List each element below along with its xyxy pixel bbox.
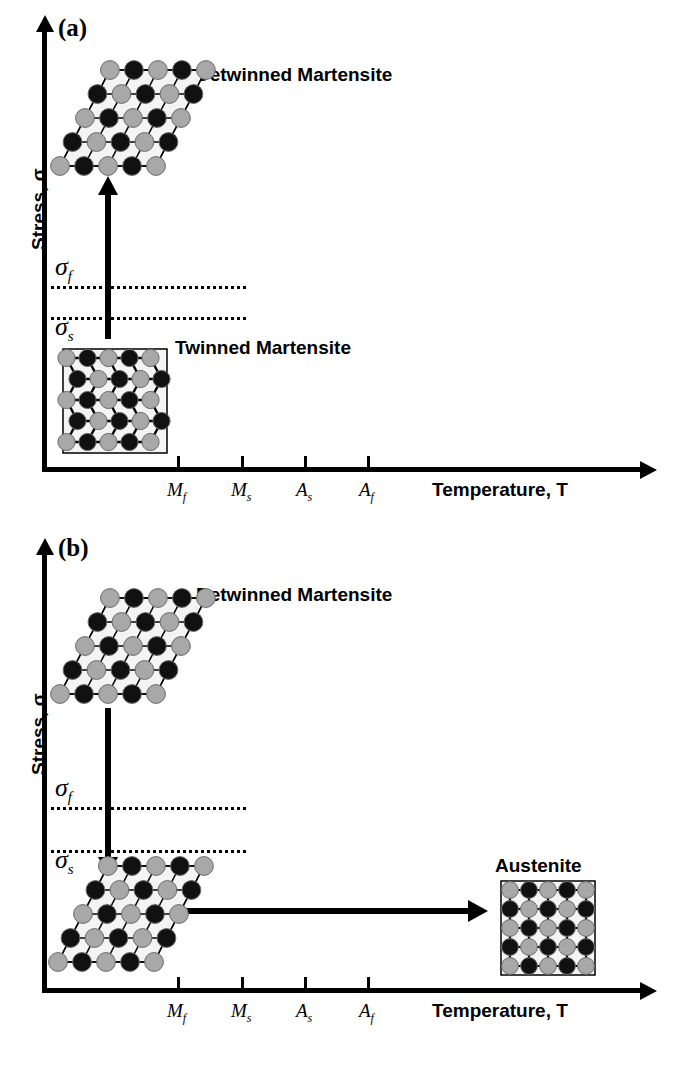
x-tick-af [367,977,370,990]
x-tick-ms [241,977,244,990]
lattice-austenite [500,880,596,976]
tick-subscript: s [247,490,252,504]
phase-label-austenite: Austenite [495,855,582,877]
x-tick-label-af: Af [359,479,374,505]
panel-a-tag: (a) [58,14,87,42]
tick-symbol: A [359,479,371,500]
tick-symbol: A [296,479,308,500]
sigma-s-dotted-line [44,850,246,853]
sheared-lattice-svg [54,588,194,708]
phase-label-detwinned-martensite: Detwinned Martensite [196,584,392,606]
tick-symbol: A [296,1000,308,1021]
x-tick-label-mf: Mf [167,1000,186,1026]
x-tick-label-as: As [296,479,312,505]
x-tick-as [304,456,307,469]
sigma-symbol: σ [55,773,68,802]
y-axis-label: Stress, σ [28,168,50,250]
x-tick-label-af: Af [359,1000,374,1026]
twinned-lattice-svg [62,348,166,452]
x-axis-line [42,988,642,993]
lattice-detwinned-martensite-a [54,60,194,180]
tick-subscript: f [371,1011,374,1025]
x-tick-mf [177,977,180,990]
lattice-twinned-martensite-a [62,348,166,452]
panel-b: (b) Stress, σ Mf Ms As Af Temperature, T… [0,520,692,1040]
x-axis-arrowhead [640,982,657,1000]
panel-a: (a) Stress, σ Mf Ms As Af Temperature, T… [0,0,692,520]
tick-symbol: A [359,1000,371,1021]
x-tick-as [304,977,307,990]
x-tick-af [367,456,370,469]
phase-label-twinned-martensite: Twinned Martensite [175,337,351,359]
x-tick-ms [241,456,244,469]
tick-symbol: M [231,1000,247,1021]
sheared-lattice-svg [52,856,192,976]
x-axis-label: Temperature, T [432,1000,568,1022]
cubic-lattice-svg [500,880,596,976]
sheared-lattice-svg [54,60,194,180]
tick-subscript: s [247,1011,252,1025]
sigma-s-label: σs [55,312,74,345]
tick-subscript: f [371,490,374,504]
sigma-subscript: f [68,268,72,284]
sigma-f-dotted-line [44,286,246,289]
tick-subscript: f [183,490,186,504]
tick-subscript: s [308,490,313,504]
y-axis-line [42,30,47,470]
x-tick-label-mf: Mf [167,479,186,505]
sigma-s-dotted-line [44,317,246,320]
lattice-detwinned-martensite-b-bottom [52,856,192,976]
unloading-arrow-shaft [105,708,111,858]
x-tick-label-ms: Ms [231,479,252,505]
sigma-f-label: σf [55,773,72,806]
lattice-detwinned-martensite-b-top [54,588,194,708]
loading-arrow-shaft [105,194,111,339]
tick-subscript: f [183,1011,186,1025]
x-axis-arrowhead [640,461,657,479]
x-tick-label-ms: Ms [231,1000,252,1026]
x-axis-label: Temperature, T [432,479,568,501]
tick-subscript: s [308,1011,313,1025]
sigma-symbol: σ [55,312,68,341]
sigma-subscript: f [68,789,72,805]
x-axis-line [42,467,642,472]
tick-symbol: M [231,479,247,500]
sigma-subscript: s [68,328,74,344]
tick-symbol: M [167,479,183,500]
x-tick-mf [177,456,180,469]
sigma-f-label: σf [55,252,72,285]
phase-label-detwinned-martensite: Detwinned Martensite [196,64,392,86]
panel-b-tag: (b) [58,534,89,562]
sigma-symbol: σ [55,252,68,281]
tick-symbol: M [167,1000,183,1021]
y-axis-label: Stress, σ [28,693,50,775]
heating-arrow-head [468,900,488,922]
sigma-f-dotted-line [44,807,246,810]
x-tick-label-as: As [296,1000,312,1026]
heating-arrow-shaft [185,908,470,914]
